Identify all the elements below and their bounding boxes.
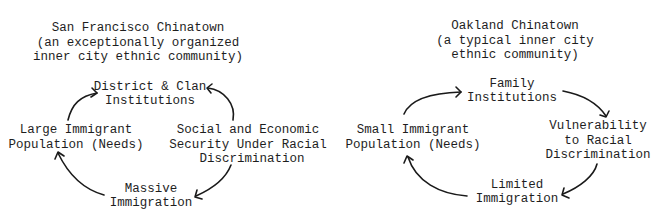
oakland-diagram: Oakland Chinatown (a typical inner city …: [345, 19, 650, 206]
sf-arrow-right-to-top: [207, 84, 233, 120]
sf-arrow-right-to-bottom: [195, 165, 231, 199]
oakland-node-family-institutions: Family Institutions: [467, 77, 557, 105]
oakland-node-right-line-1: Vulnerability: [549, 119, 647, 133]
sf-node-large-immigrant-population: Large Immigrant Population (Needs): [8, 123, 143, 152]
sf-node-right-line-2: Security Under Racial: [169, 138, 327, 152]
oakland-title-line-3: ethnic community): [451, 48, 579, 62]
sf-diagram: San Francisco Chinatown (an exceptionall…: [8, 21, 326, 210]
oakland-node-right-line-2: to Racial: [564, 134, 632, 148]
oakland-node-right-line-3: Discrimination: [545, 148, 650, 162]
sf-title: San Francisco Chinatown (an exceptionall…: [33, 21, 243, 64]
oakland-arrow-bottom-to-left: [404, 156, 467, 196]
sf-node-right-line-3: Discrimination: [199, 152, 304, 166]
oakland-arrow-right-to-bottom: [562, 164, 597, 198]
sf-title-line-3: inner city ethnic community): [33, 50, 243, 64]
sf-node-massive-immigration: Massive Immigration: [110, 182, 193, 210]
sf-node-social-economic-security: Social and Economic Security Under Racia…: [169, 123, 327, 166]
oakland-node-vulnerability: Vulnerability to Racial Discrimination: [545, 119, 650, 162]
sf-arrow-left-to-top: [68, 88, 97, 120]
sf-node-top-line-2: Institutions: [105, 94, 195, 108]
sf-title-line-2: (an exceptionally organized: [37, 36, 240, 50]
oakland-node-bottom-line-2: Immigration: [476, 192, 559, 206]
sf-node-top-line-1: District & Clan: [94, 80, 207, 94]
oakland-node-small-immigrant-population: Small Immigrant Population (Needs): [345, 123, 480, 152]
sf-node-right-line-1: Social and Economic: [177, 123, 320, 137]
oakland-node-left-line-1: Small Immigrant: [357, 123, 470, 137]
sf-node-bottom-line-2: Immigration: [110, 196, 193, 210]
sf-node-left-line-1: Large Immigrant: [20, 123, 133, 137]
oakland-node-bottom-line-1: Limited: [491, 178, 544, 192]
sf-node-district-clan-institutions: District & Clan Institutions: [94, 80, 207, 108]
oakland-node-limited-immigration: Limited Immigration: [476, 178, 559, 206]
oakland-title: Oakland Chinatown (a typical inner city …: [436, 19, 594, 62]
sf-title-line-1: San Francisco Chinatown: [52, 21, 225, 35]
oakland-arrow-top-to-right: [563, 91, 609, 117]
sf-arrow-bottom-to-left: [55, 152, 104, 195]
oakland-node-top-line-1: Family: [489, 77, 535, 91]
oakland-title-line-1: Oakland Chinatown: [451, 19, 579, 33]
diagram-canvas: San Francisco Chinatown (an exceptionall…: [0, 0, 661, 220]
oakland-node-top-line-2: Institutions: [467, 91, 557, 105]
sf-node-bottom-line-1: Massive: [125, 182, 178, 196]
oakland-title-line-2: (a typical inner city: [436, 34, 594, 48]
oakland-node-left-line-2: Population (Needs): [345, 138, 480, 152]
sf-node-left-line-2: Population (Needs): [8, 138, 143, 152]
oakland-arrow-left-to-top: [404, 87, 461, 114]
